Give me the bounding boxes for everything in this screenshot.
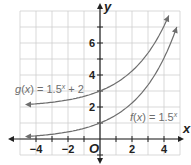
y-tick-label: 4: [89, 69, 96, 81]
y-axis-down-arrow-icon: [97, 158, 103, 164]
x-tick-label: −4: [30, 143, 43, 155]
x-axis-left-arrow-icon: [8, 136, 14, 142]
function-label-g: g(x) = 1.5x + 2: [15, 83, 84, 95]
y-tick-label: 2: [89, 101, 95, 113]
origin-label: O: [89, 141, 99, 156]
y-axis-up-arrow-icon: [97, 3, 103, 9]
curve-left-arrow-icon: [25, 101, 31, 107]
y-tick-label: 6: [89, 37, 95, 49]
x-tick-label: −2: [62, 143, 75, 155]
y-axis-label: y: [103, 0, 112, 14]
x-tick-label: 4: [161, 143, 168, 155]
function-label-f: f(x) = 1.5x: [130, 111, 178, 123]
exponential-graph: −4−224246Oxyg(x) = 1.5x + 2f(x) = 1.5x: [0, 0, 191, 165]
x-tick-label: 2: [129, 143, 135, 155]
x-axis-right-arrow-icon: [178, 136, 184, 142]
x-axis-label: x: [182, 121, 191, 136]
curve-right-arrow-icon: [164, 14, 172, 22]
